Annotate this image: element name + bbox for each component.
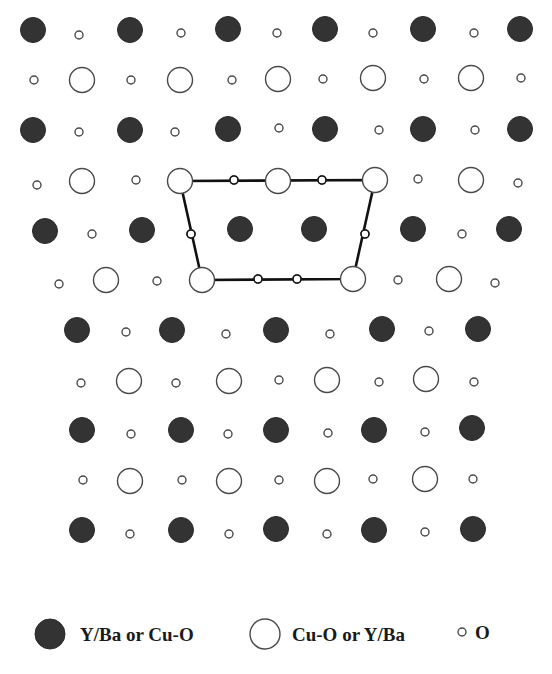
oxygen-atom [177,29,185,37]
unit-cell-oxygen-atom [254,275,262,283]
filled-atom [411,117,436,142]
filled-atom [508,17,533,42]
unit-cell-oxygen-atom [230,176,238,184]
open-atom [70,169,95,194]
oxygen-atom [319,75,327,83]
oxygen-atom [471,126,479,134]
oxygen-atom [88,230,96,238]
oxygen-atom [275,376,283,384]
open-atom [217,469,242,494]
oxygen-atom [77,379,85,387]
oxygen-atom [33,181,41,189]
filled-atom [130,218,155,243]
oxygen-atom [126,530,134,538]
oxygen-atom [224,430,232,438]
oxygen-atom [420,75,428,83]
open-atom [315,469,340,494]
filled-atom [313,117,338,142]
open-atom [168,169,193,194]
oxygen-atom [153,277,161,285]
filled-atom [460,416,485,441]
filled-atom [70,418,95,443]
filled-atom [21,18,46,43]
open-atom [217,369,242,394]
oxygen-atom [127,76,135,84]
filled-atom [70,518,95,543]
filled-atom [216,17,241,42]
oxygen-atom [273,29,281,37]
filled-atom [362,518,387,543]
oxygen-atom [228,76,236,84]
filled-circle-icon [35,619,65,649]
oxygen-atom [421,528,429,536]
oxygen-atom [172,379,180,387]
oxygen-atom [275,124,283,132]
oxygen-atom [470,378,478,386]
filled-atom [118,18,143,43]
filled-atom [508,117,533,142]
open-atom [315,368,340,393]
legend-label-open: Cu-O or Y/Ba [292,624,405,645]
oxygen-atom [517,74,525,82]
open-atom [413,467,438,492]
oxygen-atom [414,175,422,183]
oxygen-atom [326,330,334,338]
oxygen-atom [470,29,478,37]
filled-atom [466,317,491,342]
filled-atom [169,418,194,443]
filled-atom [362,418,387,443]
oxygen-atom [275,476,283,484]
filled-atom [370,317,395,342]
legend-label-filled: Y/Ba or Cu-O [80,624,194,645]
open-atom [70,68,95,93]
oxygen-atom [30,76,38,84]
open-atom [437,267,462,292]
filled-atom [313,17,338,42]
open-circle-icon [250,619,280,649]
open-atom [361,66,386,91]
oxygen-atom [55,280,63,288]
oxygen-atom [491,279,499,287]
oxygen-atom [375,378,383,386]
open-atom [363,168,388,193]
oxygen-atom [375,126,383,134]
filled-atom [169,518,194,543]
filled-atom [216,117,241,142]
oxygen-atom [132,176,140,184]
oxygen-atom [79,476,87,484]
open-atom [414,367,439,392]
oxygen-atom [369,29,377,37]
oxygen-atom [178,476,186,484]
filled-atom [21,118,46,143]
open-atom [94,268,119,293]
open-atom [266,169,291,194]
unit-cell-oxygen-atom [187,230,195,238]
legend-label-oxygen: O [475,622,490,643]
oxygen-atom [323,530,331,538]
oxygen-atom [514,179,522,187]
unit-cell-oxygen-atom [361,230,369,238]
oxygen-atom [127,430,135,438]
open-atom [341,267,366,292]
oxygen-atom [425,327,433,335]
filled-atom [264,517,289,542]
open-atom [118,469,143,494]
unit-cell-oxygen-atom [318,176,326,184]
open-atom [117,369,142,394]
oxygen-atom [225,530,233,538]
filled-atom [264,418,289,443]
filled-atom [65,318,90,343]
filled-atom [411,17,436,42]
filled-atom [401,217,426,242]
filled-atom [264,318,289,343]
legend-item-open: Cu-O or Y/Ba [250,619,405,649]
filled-atom [160,318,185,343]
open-atom [459,66,484,91]
oxygen-atom [75,31,83,39]
filled-atom [497,217,522,242]
oxygen-atom [469,475,477,483]
unit-cell-oxygen-atom [293,275,301,283]
crystal-lattice-diagram: Y/Ba or Cu-O Cu-O or Y/Ba O [0,0,552,674]
legend-item-filled: Y/Ba or Cu-O [35,619,194,649]
open-atom [459,168,484,193]
